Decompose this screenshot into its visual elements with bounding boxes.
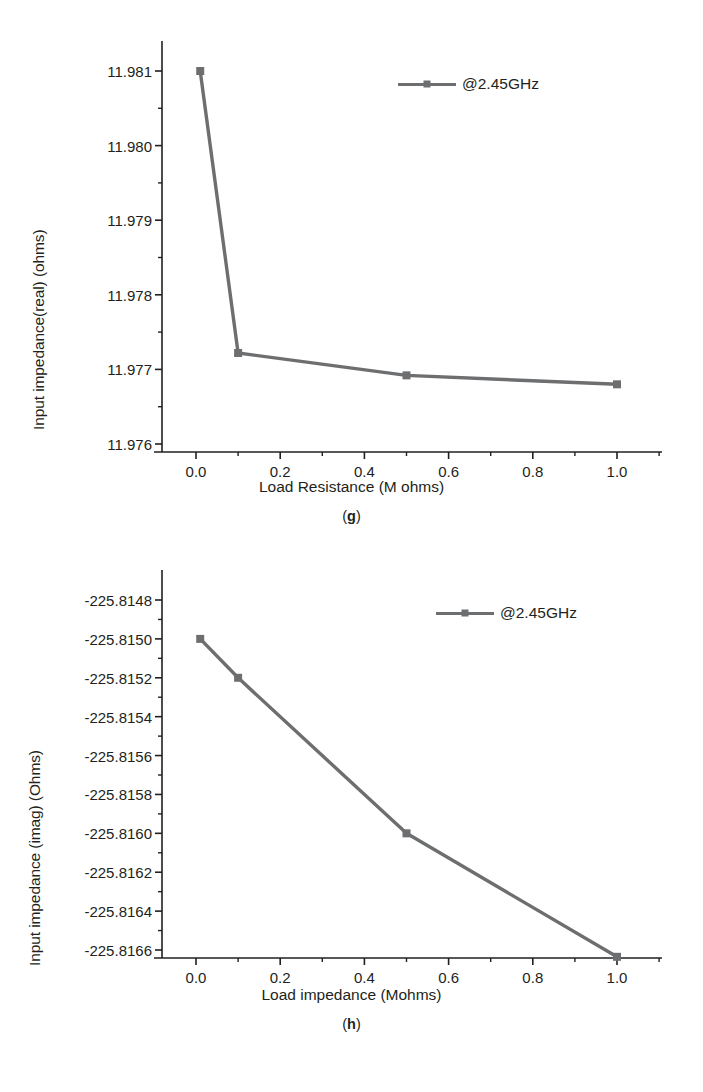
panel-caption-g: (g): [0, 508, 703, 524]
x-tick-label: 0.6: [438, 969, 459, 986]
legend-line-marker-icon: [436, 612, 494, 615]
series-data-point-marker: [613, 380, 621, 388]
y-tick-label: -225.8148: [84, 592, 152, 609]
y-tick-label: 11.981: [107, 63, 152, 80]
series-data-point-marker: [403, 829, 411, 837]
y-tick-label: -225.8166: [84, 942, 152, 959]
x-axis-label-h: Load impedance (Mohms): [0, 986, 703, 1004]
x-tick-label: 0.0: [186, 969, 207, 986]
series-data-point-marker: [613, 953, 621, 961]
panel-caption-h: (h): [0, 1016, 703, 1032]
plot-area-g: 11.97611.97711.97811.97911.98011.9810.00…: [0, 0, 703, 480]
y-tick-label: -225.8154: [84, 708, 152, 725]
series-data-point-marker: [234, 349, 242, 357]
legend-h: @2.45GHz: [436, 604, 577, 622]
figure-panel-g: Input impedance(real) (ohms) 11.97611.97…: [0, 0, 703, 546]
y-tick-label: -225.8150: [84, 630, 152, 647]
y-tick-label: -225.8152: [84, 669, 152, 686]
y-tick-label: -225.8160: [84, 825, 152, 842]
legend-label-g: @2.45GHz: [462, 75, 539, 93]
legend-label-h: @2.45GHz: [500, 604, 577, 622]
panel-caption-letter-g: g: [347, 508, 356, 524]
legend-g: @2.45GHz: [398, 75, 539, 93]
y-tick-label: -225.8156: [84, 747, 152, 764]
series-data-point-marker: [234, 674, 242, 682]
series-data-point-marker: [403, 371, 411, 379]
chart-svg-g: [0, 0, 703, 480]
y-tick-label: 11.977: [107, 361, 152, 378]
y-tick-label: 11.979: [107, 212, 152, 229]
x-tick-label: 0.4: [354, 969, 375, 986]
series-data-point-marker: [196, 635, 204, 643]
series-data-point-marker: [196, 67, 204, 75]
series-line-2-45ghz: [200, 71, 617, 384]
y-tick-label: 11.980: [107, 137, 152, 154]
y-tick-label: 11.976: [107, 436, 152, 453]
y-tick-label: -225.8158: [84, 786, 152, 803]
x-tick-label: 1.0: [607, 969, 628, 986]
y-tick-label: -225.8164: [84, 903, 152, 920]
y-tick-label: 11.978: [107, 286, 152, 303]
legend-line-marker-icon: [398, 83, 456, 86]
figure-panel-h: Input impedance (imag) (Ohms) -225.8166-…: [0, 546, 703, 1092]
series-line-2-45ghz: [200, 639, 617, 957]
panel-caption-letter-h: h: [347, 1016, 356, 1032]
y-tick-label: -225.8162: [84, 864, 152, 881]
plot-area-h: -225.8166-225.8164-225.8162-225.8160-225…: [0, 546, 703, 1026]
x-tick-label: 0.2: [270, 969, 291, 986]
x-axis-label-g: Load Resistance (M ohms): [0, 478, 703, 496]
x-tick-label: 0.8: [522, 969, 543, 986]
